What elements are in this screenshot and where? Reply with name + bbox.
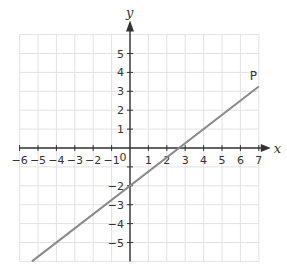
x-tick-label: 6 bbox=[237, 154, 244, 167]
y-tick-label: 5 bbox=[117, 48, 124, 61]
x-tick-label: 7 bbox=[255, 154, 262, 167]
y-tick-label: 2 bbox=[117, 104, 124, 117]
line-label: P bbox=[250, 69, 257, 83]
axes: xy bbox=[20, 5, 282, 262]
chart: xy −6−5−4−3−2−10123456754321−2−3−4−5 P bbox=[0, 0, 287, 276]
y-tick-label: −5 bbox=[108, 237, 124, 250]
y-tick-label: −4 bbox=[108, 218, 124, 231]
x-tick-label: −3 bbox=[67, 154, 83, 167]
x-axis-arrow-icon bbox=[261, 144, 271, 152]
y-axis-label: y bbox=[125, 5, 134, 20]
x-tick-label: −1 bbox=[103, 154, 119, 167]
x-tick-label: 1 bbox=[145, 154, 152, 167]
line-p bbox=[32, 87, 259, 262]
y-tick-label: 4 bbox=[117, 66, 124, 79]
x-tick-label: −5 bbox=[30, 154, 46, 167]
x-tick-label: −4 bbox=[48, 154, 64, 167]
y-axis-arrow-icon bbox=[126, 21, 134, 32]
origin-label: 0 bbox=[120, 151, 127, 164]
y-tick-label: 1 bbox=[117, 123, 124, 136]
x-tick-label: −2 bbox=[85, 154, 101, 167]
x-tick-label: 3 bbox=[182, 154, 189, 167]
x-tick-label: 5 bbox=[219, 154, 226, 167]
y-tick-label: 3 bbox=[117, 85, 124, 98]
x-tick-label: 4 bbox=[200, 154, 207, 167]
x-tick-label: −6 bbox=[11, 154, 27, 167]
x-axis-label: x bbox=[274, 141, 282, 156]
y-tick-label: −2 bbox=[108, 180, 124, 193]
